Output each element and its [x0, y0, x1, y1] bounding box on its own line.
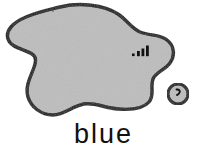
speck-icon [52, 10, 54, 12]
main-blob-shape [7, 5, 173, 115]
figure-blue: blue [0, 0, 207, 159]
figure-caption: blue [0, 118, 207, 150]
